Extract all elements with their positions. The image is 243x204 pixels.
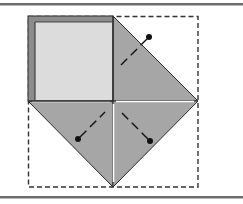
dot-icon: [147, 138, 153, 144]
top-left-flap-face: [35, 22, 112, 100]
bottom-left-flap: [28, 101, 113, 187]
diagram-svg: [0, 0, 243, 204]
bottom-right-flap: [113, 101, 198, 187]
bottom-rule: [0, 196, 243, 199]
top-right-flap: [113, 16, 198, 101]
top-rule: [0, 3, 243, 6]
dot-icon: [146, 34, 152, 40]
origami-diagram: [0, 0, 243, 204]
dot-icon: [75, 136, 81, 142]
